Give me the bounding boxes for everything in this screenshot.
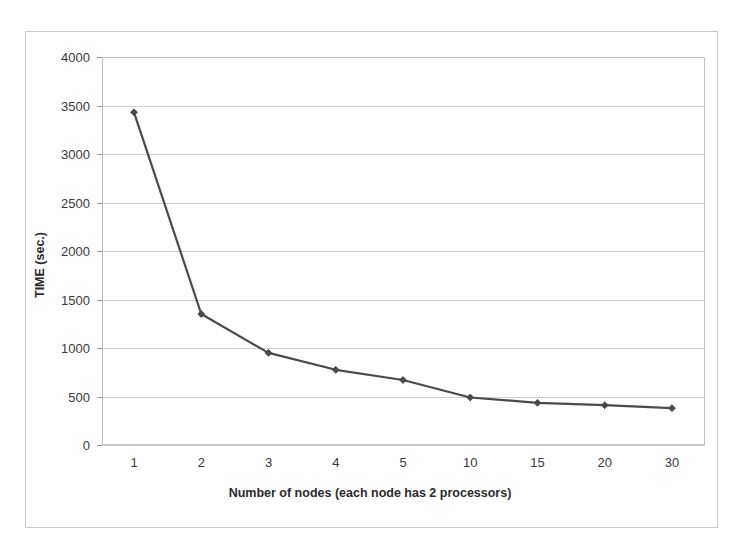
line-chart: 05001000150020002500300035004000 1234510… — [0, 0, 741, 558]
data-point-marker-15 — [534, 399, 541, 406]
y-axis-title: TIME (sec.) — [33, 232, 47, 298]
data-point-marker-20 — [601, 402, 608, 409]
y-tick-label-2000: 2000 — [61, 244, 90, 259]
y-tick-labels: 05001000150020002500300035004000 — [61, 50, 90, 453]
y-tick-label-2500: 2500 — [61, 196, 90, 211]
x-tick-label-2: 2 — [198, 455, 205, 470]
series-path-group — [134, 112, 672, 408]
data-point-marker-10 — [467, 394, 474, 401]
y-tick-label-1500: 1500 — [61, 293, 90, 308]
data-point-marker-30 — [669, 405, 676, 412]
data-point-marker-5 — [400, 377, 407, 384]
y-tick-marks — [97, 58, 102, 446]
x-tick-label-10: 10 — [463, 455, 477, 470]
y-tick-label-0: 0 — [83, 438, 90, 453]
x-tick-label-5: 5 — [399, 455, 406, 470]
data-point-marker-4 — [332, 366, 339, 373]
y-tick-label-3000: 3000 — [61, 147, 90, 162]
x-tick-label-1: 1 — [130, 455, 137, 470]
y-tick-label-1000: 1000 — [61, 341, 90, 356]
y-tick-label-3500: 3500 — [61, 99, 90, 114]
x-tick-labels: 1234510152030 — [130, 455, 679, 470]
series-line-0 — [134, 112, 672, 408]
x-tick-label-30: 30 — [665, 455, 679, 470]
x-tick-label-4: 4 — [332, 455, 339, 470]
y-tick-label-4000: 4000 — [61, 50, 90, 65]
y-tick-label-500: 500 — [68, 390, 90, 405]
x-tick-label-3: 3 — [265, 455, 272, 470]
x-axis-title: Number of nodes (each node has 2 process… — [229, 486, 512, 500]
x-tick-label-15: 15 — [530, 455, 544, 470]
data-point-marker-1 — [131, 109, 138, 116]
x-tick-label-20: 20 — [598, 455, 612, 470]
figure-root: 05001000150020002500300035004000 1234510… — [0, 0, 741, 558]
y-gridlines — [102, 58, 705, 446]
